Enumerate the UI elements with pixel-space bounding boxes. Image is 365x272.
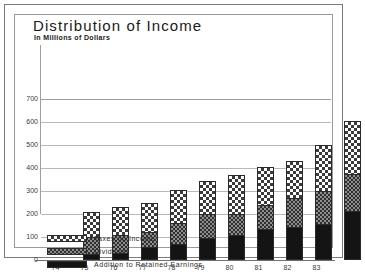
bar-segment-taxes-75 bbox=[112, 207, 129, 235]
y-tick-700: 700 bbox=[26, 95, 38, 102]
y-tick-300: 300 bbox=[26, 187, 38, 194]
y-tick-200: 200 bbox=[26, 210, 38, 217]
bar-segment-taxes-78 bbox=[199, 181, 216, 214]
bar-segment-dividends-83 bbox=[344, 174, 361, 211]
bar-series-group bbox=[77, 52, 365, 260]
bar-segment-taxes-81 bbox=[286, 161, 303, 198]
bar-segment-dividends-82 bbox=[315, 191, 332, 224]
bar-82 bbox=[315, 145, 332, 260]
legend-label-taxes: Taxes on Income bbox=[94, 235, 155, 242]
y-tick-400: 400 bbox=[26, 164, 38, 171]
bar-segment-taxes-83 bbox=[344, 121, 361, 174]
bar-83 bbox=[344, 121, 361, 260]
bar-segment-taxes-76 bbox=[141, 203, 158, 233]
legend-swatch-retained bbox=[47, 261, 87, 268]
bar-segment-taxes-80 bbox=[257, 167, 274, 205]
y-tick-100: 100 bbox=[26, 233, 38, 240]
legend-label-dividends: Dividends bbox=[94, 248, 130, 255]
page-title: Distribution of Income bbox=[33, 17, 202, 34]
chart-subtitle: In Millions of Dollars bbox=[34, 34, 110, 41]
y-tick-600: 600 bbox=[26, 118, 38, 125]
legend-swatch-taxes bbox=[47, 235, 87, 242]
bar-segment-taxes-82 bbox=[315, 145, 332, 191]
chart-legend: Taxes on IncomeDividendsAddition to Reta… bbox=[47, 233, 317, 272]
legend-swatch-dividends bbox=[47, 248, 87, 255]
y-tick-500: 500 bbox=[26, 141, 38, 148]
chart-frame: Distribution of Income In Millions of Do… bbox=[4, 4, 343, 258]
legend-item-dividends: Dividends bbox=[47, 246, 317, 257]
bar-segment-dividends-80 bbox=[257, 205, 274, 229]
legend-item-taxes: Taxes on Income bbox=[47, 233, 317, 244]
legend-label-retained: Addition to Retained Earnings bbox=[94, 261, 203, 268]
bar-segment-retained-83 bbox=[344, 211, 361, 260]
bar-segment-dividends-79 bbox=[228, 214, 245, 235]
bar-segment-retained-82 bbox=[315, 224, 332, 260]
bar-segment-taxes-79 bbox=[228, 175, 245, 214]
bar-segment-taxes-77 bbox=[170, 190, 187, 223]
plot-area: 0100200300400500600700 74757677787980818… bbox=[41, 52, 331, 213]
bar-segment-dividends-81 bbox=[286, 198, 303, 227]
legend-divider bbox=[35, 260, 320, 261]
